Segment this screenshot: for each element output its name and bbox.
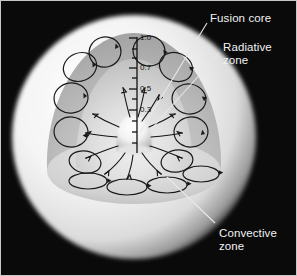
diagram-stage: 1.00.70.50.3 Fusion coreRadiative zoneCo… (1, 1, 296, 275)
label-radiative-zone: Radiative zone (223, 41, 272, 66)
fusion-core-base (117, 145, 151, 155)
scale-tick-label: 0.7 (140, 64, 151, 72)
scale-tick-label: 0.3 (140, 106, 151, 114)
label-fusion-core: Fusion core (210, 12, 271, 25)
scale-tick-label: 0.5 (140, 85, 151, 93)
solar-interior-figure: 1.00.70.50.3 Fusion coreRadiative zoneCo… (0, 0, 297, 276)
scale-tick-label: 1.0 (140, 34, 151, 42)
label-convective-zone: Convective zone (219, 227, 277, 252)
